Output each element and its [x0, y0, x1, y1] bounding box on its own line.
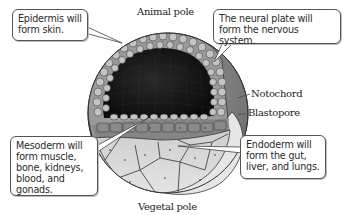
- callout-line: form skin.: [18, 24, 82, 35]
- callout-line: liver, and lungs.: [246, 161, 320, 172]
- blastopore-label: Blastopore: [248, 107, 300, 118]
- mesoderm-callout: Mesoderm will form muscle, bone, kidneys…: [10, 136, 98, 196]
- callout-line: bone, kidneys,: [16, 162, 92, 173]
- callout-line: form the gut,: [246, 150, 320, 161]
- notochord-label: Notochord: [251, 88, 302, 99]
- callout-line: Epidermis will: [18, 13, 82, 24]
- animal-pole-label: Animal pole: [137, 6, 194, 17]
- callout-line: Mesoderm will: [16, 140, 92, 151]
- epidermis-callout: Epidermis will form skin.: [12, 9, 88, 41]
- callout-line: Endoderm will: [246, 139, 320, 150]
- embryo-sphere: [88, 32, 248, 194]
- neural-plate-callout: The neural plate will form the nervous s…: [213, 9, 341, 44]
- endoderm-callout: Endoderm will form the gut, liver, and l…: [240, 135, 326, 179]
- callout-line: blood, and: [16, 173, 92, 184]
- vegetal-pole-label: Vegetal pole: [138, 201, 197, 212]
- callout-line: form the nervous system.: [219, 24, 335, 46]
- callout-line: gonads.: [16, 184, 92, 195]
- callout-line: The neural plate will: [219, 13, 335, 24]
- callout-line: form muscle,: [16, 151, 92, 162]
